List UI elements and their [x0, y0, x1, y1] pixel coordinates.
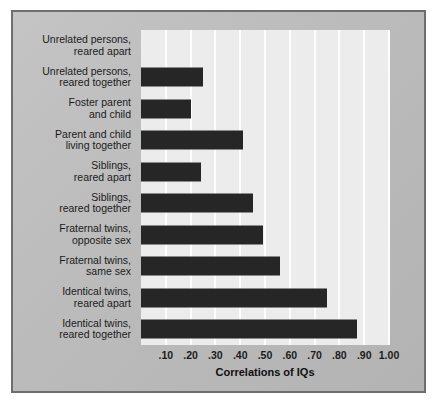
x-tick-label: .80	[332, 349, 347, 361]
x-tick-label: .50	[258, 349, 273, 361]
bar-row: Siblings, reared apart	[13, 156, 389, 188]
bar	[141, 99, 191, 118]
bar-row: Identical twins, reared together	[13, 314, 389, 346]
bar-track	[141, 125, 389, 157]
bar-track	[141, 188, 389, 220]
bar-category-label: Siblings, reared apart	[9, 160, 137, 183]
x-tick-label: .90	[357, 349, 372, 361]
x-tick-label: .30	[208, 349, 223, 361]
bar-category-label: Identical twins, reared together	[9, 318, 137, 341]
bar	[141, 320, 357, 339]
x-tick-label: 1.00	[379, 349, 399, 361]
bar-track	[141, 30, 389, 62]
bar	[141, 288, 327, 307]
x-tick-label: .20	[183, 349, 198, 361]
bar-category-label: Foster parent and child	[9, 97, 137, 120]
bar-track	[141, 93, 389, 125]
bar	[141, 131, 243, 150]
x-tick-label: .60	[282, 349, 297, 361]
bar	[141, 162, 201, 181]
bar-category-label: Fraternal twins, opposite sex	[9, 223, 137, 246]
bar-row: Siblings, reared together	[13, 188, 389, 220]
bar-track	[141, 156, 389, 188]
bar-row: Identical twins, reared apart	[13, 282, 389, 314]
bar-row: Fraternal twins, same sex	[13, 251, 389, 283]
bar-row: Fraternal twins, opposite sex	[13, 219, 389, 251]
bar-category-label: Identical twins, reared apart	[9, 286, 137, 309]
bar	[141, 257, 280, 276]
bar-row: Unrelated persons, reared together	[13, 62, 389, 94]
x-axis-ticks: .10.20.30.40.50.60.70.80.901.00	[141, 349, 389, 365]
bar	[141, 68, 203, 87]
bar-track	[141, 282, 389, 314]
chart-figure: Unrelated persons, reared apartUnrelated…	[11, 10, 426, 393]
bar-track	[141, 62, 389, 94]
bar-row: Foster parent and child	[13, 93, 389, 125]
bar-track	[141, 314, 389, 346]
x-tick-label: .10	[158, 349, 173, 361]
x-tick-label: .70	[307, 349, 322, 361]
bar-category-label: Parent and child living together	[9, 129, 137, 152]
x-axis-title: Correlations of IQs	[141, 366, 389, 378]
bar-track	[141, 219, 389, 251]
bar	[141, 194, 253, 213]
bar-category-label: Unrelated persons, reared apart	[9, 34, 137, 57]
bar-category-label: Siblings, reared together	[9, 192, 137, 215]
x-tick-label: .40	[233, 349, 248, 361]
bar-track	[141, 251, 389, 283]
bar-row: Unrelated persons, reared apart	[13, 30, 389, 62]
bar-category-label: Unrelated persons, reared together	[9, 66, 137, 89]
bar	[141, 225, 263, 244]
bar-rows: Unrelated persons, reared apartUnrelated…	[13, 30, 389, 345]
bar-row: Parent and child living together	[13, 125, 389, 157]
bar-category-label: Fraternal twins, same sex	[9, 255, 137, 278]
